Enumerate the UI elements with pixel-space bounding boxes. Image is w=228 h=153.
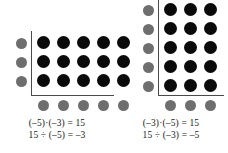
product-dot [97, 74, 110, 87]
column-marker-dot [98, 100, 109, 111]
product-dot [184, 22, 197, 35]
product-dot [204, 79, 217, 92]
column-marker-dot [38, 100, 49, 111]
product-dot [57, 74, 70, 87]
column-marker-dot [78, 100, 89, 111]
product-dot [37, 74, 50, 87]
equation-multiplication: (–3)·(–5) = 15 [114, 117, 228, 129]
row-marker-dot [143, 43, 154, 54]
product-dot [37, 36, 50, 49]
product-dot [57, 36, 70, 49]
equation-block-right: (–3)·(–5) = 15 15 ÷ (–3) = –5 [114, 117, 228, 141]
product-dot [37, 55, 50, 68]
equation-division: 15 ÷ (–3) = –5 [114, 129, 228, 141]
product-dot [184, 3, 197, 16]
vertical-axis-line [31, 31, 32, 96]
column-marker-dot [205, 100, 216, 111]
product-dot [164, 22, 177, 35]
equation-division: 15 ÷ (–5) = –3 [0, 129, 114, 141]
product-dot [97, 36, 110, 49]
horizontal-axis-line [31, 95, 114, 96]
product-dot [164, 41, 177, 54]
diagram-panel-left: (–5)·(–3) = 15 15 ÷ (–5) = –3 [0, 0, 114, 153]
product-dot [184, 60, 197, 73]
product-dot [57, 55, 70, 68]
column-marker-dot [58, 100, 69, 111]
column-marker-dot [185, 100, 196, 111]
array-grid-left [0, 0, 114, 112]
diagram-panel-right: (–3)·(–5) = 15 15 ÷ (–3) = –5 [114, 0, 228, 153]
product-dot [204, 60, 217, 73]
product-dot [77, 74, 90, 87]
product-dot [204, 3, 217, 16]
equation-multiplication: (–5)·(–3) = 15 [0, 117, 114, 129]
row-marker-dot [16, 38, 27, 49]
row-marker-dot [16, 76, 27, 87]
column-marker-dot [165, 100, 176, 111]
row-marker-dot [143, 62, 154, 73]
product-dot [97, 55, 110, 68]
vertical-axis-line [158, 0, 159, 96]
equation-block-left: (–5)·(–3) = 15 15 ÷ (–5) = –3 [0, 117, 114, 141]
product-dot [204, 41, 217, 54]
array-grid-right [114, 0, 228, 112]
product-dot [184, 41, 197, 54]
product-dot [164, 3, 177, 16]
row-marker-dot [143, 24, 154, 35]
product-dot [164, 60, 177, 73]
product-dot [164, 79, 177, 92]
row-marker-dot [143, 5, 154, 16]
horizontal-axis-line [158, 95, 224, 96]
row-marker-dot [143, 81, 154, 92]
row-marker-dot [16, 57, 27, 68]
product-dot [77, 36, 90, 49]
product-dot [204, 22, 217, 35]
product-dot [184, 79, 197, 92]
product-dot [77, 55, 90, 68]
